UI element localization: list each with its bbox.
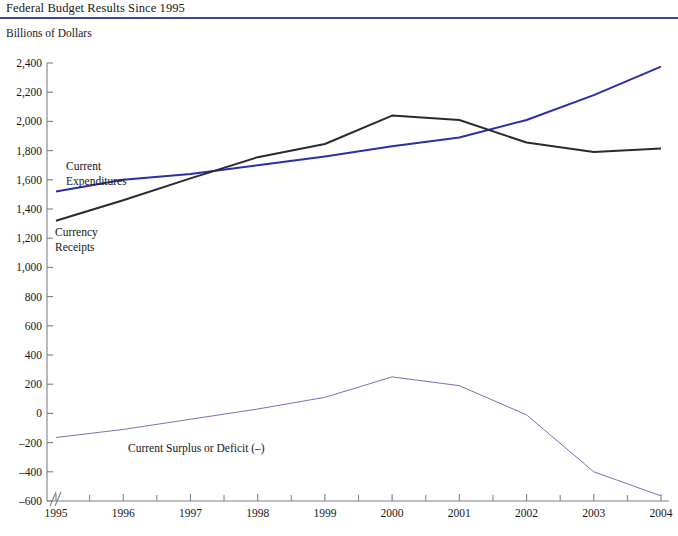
x-axis: 1995199619971998199920002001200220032004: [45, 492, 673, 519]
y-tick-label: 1,800: [16, 145, 42, 158]
y-tick-label: 600: [25, 320, 43, 332]
series-group: [56, 67, 661, 496]
y-tick-label: 1,600: [16, 174, 42, 187]
axis-break-slash-1: [50, 492, 56, 506]
x-tick-label: 2001: [448, 507, 471, 519]
y-axis: –600–400–20002004006008001,0001,2001,400…: [16, 57, 53, 507]
x-tick-label: 1996: [112, 507, 135, 519]
x-tick-label: 1995: [45, 507, 68, 519]
x-tick-group: 1995199619971998199920002001200220032004: [45, 494, 673, 519]
expenditures-label: Expenditures: [66, 175, 127, 188]
series-line: [56, 377, 661, 496]
y-tick-label: –600: [18, 495, 42, 507]
y-tick-label: 2,400: [16, 57, 42, 70]
y-tick-label: 2,000: [16, 115, 42, 128]
chart-page: Federal Budget Results Since 1995 Billio…: [0, 0, 678, 536]
y-tick-label: –200: [18, 437, 42, 449]
x-tick-label: 2000: [381, 507, 404, 519]
y-tick-label: 200: [25, 378, 43, 390]
y-tick-label: 800: [25, 291, 43, 303]
x-tick-label: 2004: [650, 507, 673, 519]
x-tick-label: 1997: [179, 507, 202, 519]
y-tick-label: 400: [25, 349, 43, 361]
expenditures-label: Current: [66, 160, 102, 172]
x-tick-label: 2003: [582, 507, 605, 519]
y-tick-label: 1,200: [16, 232, 42, 245]
x-tick-label: 2002: [515, 507, 538, 519]
y-tick-label: 2,200: [16, 86, 42, 99]
receipts-label: Currency: [55, 226, 98, 239]
annotation-group: CurrentExpendituresCurrencyReceiptsCurre…: [55, 160, 265, 455]
y-tick-label: 1,400: [16, 203, 42, 216]
line-chart: –600–400–20002004006008001,0001,2001,400…: [0, 0, 678, 536]
x-tick-label: 1998: [246, 507, 269, 519]
series-line: [56, 116, 661, 221]
x-tick-label: 1999: [313, 507, 336, 519]
y-tick-label: 1,000: [16, 261, 42, 274]
y-tick-label: 0: [36, 407, 42, 419]
deficit-label: Current Surplus or Deficit (–): [128, 442, 265, 455]
receipts-label: Receipts: [55, 241, 95, 254]
y-tick-label: –400: [18, 466, 42, 478]
